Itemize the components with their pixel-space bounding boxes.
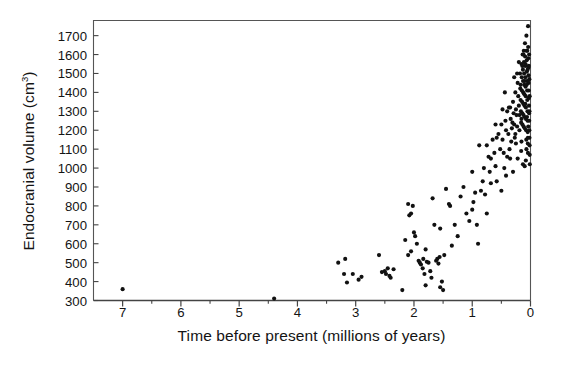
data-point xyxy=(424,283,428,287)
data-point xyxy=(467,219,471,223)
data-point xyxy=(400,288,404,292)
data-point xyxy=(386,266,390,270)
data-point xyxy=(421,266,425,270)
data-point xyxy=(512,75,516,79)
data-point xyxy=(488,170,492,174)
data-point xyxy=(523,164,527,168)
data-point xyxy=(421,257,425,261)
data-point xyxy=(519,83,523,87)
data-point xyxy=(121,287,125,291)
data-point xyxy=(515,71,519,75)
data-point xyxy=(442,253,446,257)
data-point xyxy=(424,247,428,251)
data-point xyxy=(384,272,388,276)
data-point xyxy=(479,189,483,193)
scatter-plot-canvas xyxy=(0,0,567,374)
data-point xyxy=(377,253,381,257)
data-point xyxy=(527,128,531,132)
x-axis-title: Time before present (millions of years) xyxy=(93,327,530,345)
data-point xyxy=(464,211,468,215)
data-point xyxy=(419,262,423,266)
data-point xyxy=(471,200,475,204)
data-point xyxy=(516,94,520,98)
data-point xyxy=(519,117,523,121)
data-point xyxy=(511,100,515,104)
data-point xyxy=(526,136,530,140)
data-point xyxy=(345,280,349,284)
data-point xyxy=(505,155,509,159)
data-point xyxy=(517,128,521,132)
data-point xyxy=(514,141,518,145)
data-point xyxy=(459,194,463,198)
data-point xyxy=(343,257,347,261)
data-point xyxy=(511,170,515,174)
data-point xyxy=(499,122,503,126)
data-point xyxy=(359,275,363,279)
data-point xyxy=(524,158,528,162)
plot-frame xyxy=(94,21,531,301)
data-point xyxy=(483,192,487,196)
data-point xyxy=(496,132,500,136)
data-point xyxy=(528,162,532,166)
data-point xyxy=(528,153,532,157)
data-point xyxy=(525,115,529,119)
data-point xyxy=(422,272,426,276)
data-point xyxy=(492,151,496,155)
data-point xyxy=(409,211,413,215)
data-point xyxy=(428,269,432,273)
x-axis-tick-label: 5 xyxy=(235,305,242,320)
data-point xyxy=(477,143,481,147)
data-point xyxy=(526,73,530,77)
data-point xyxy=(389,276,393,280)
data-point xyxy=(510,126,514,130)
data-point xyxy=(500,107,504,111)
data-point xyxy=(413,234,417,238)
data-point xyxy=(507,147,511,151)
data-point xyxy=(527,52,531,56)
data-point xyxy=(517,104,521,108)
data-point xyxy=(521,52,525,56)
data-point xyxy=(438,227,442,231)
data-point xyxy=(342,272,346,276)
data-point xyxy=(526,124,530,128)
data-point xyxy=(527,104,531,108)
data-point xyxy=(524,147,528,151)
data-point xyxy=(520,75,524,79)
data-point xyxy=(503,90,507,94)
data-point xyxy=(509,140,513,144)
data-point xyxy=(403,238,407,242)
x-axis-tick-label: 6 xyxy=(177,305,184,320)
x-axis-tick-label: 7 xyxy=(119,305,126,320)
data-point xyxy=(524,34,528,38)
data-point xyxy=(409,249,413,253)
data-point xyxy=(523,79,527,83)
data-point xyxy=(513,132,517,136)
data-point xyxy=(527,88,531,92)
data-point xyxy=(429,276,433,280)
data-point xyxy=(505,109,509,113)
data-point xyxy=(431,196,435,200)
data-point xyxy=(526,68,530,72)
data-point xyxy=(521,68,525,72)
data-point xyxy=(522,102,526,106)
data-point xyxy=(485,143,489,147)
data-point xyxy=(495,136,499,140)
data-point xyxy=(453,223,457,227)
x-axis-tick-label: 3 xyxy=(352,305,359,320)
data-point xyxy=(450,244,454,248)
data-point xyxy=(440,280,444,284)
data-point xyxy=(527,109,531,113)
data-point xyxy=(525,49,529,53)
x-axis-tick-label: 1 xyxy=(469,305,476,320)
data-point xyxy=(481,179,485,183)
data-point xyxy=(444,187,448,191)
data-point xyxy=(507,105,511,109)
data-point xyxy=(527,119,531,123)
data-point xyxy=(456,234,460,238)
data-point xyxy=(516,157,520,161)
x-axis-tick-label: 4 xyxy=(294,305,301,320)
data-point xyxy=(415,242,419,246)
data-point xyxy=(475,223,479,227)
data-point xyxy=(514,107,518,111)
data-point xyxy=(504,128,508,132)
